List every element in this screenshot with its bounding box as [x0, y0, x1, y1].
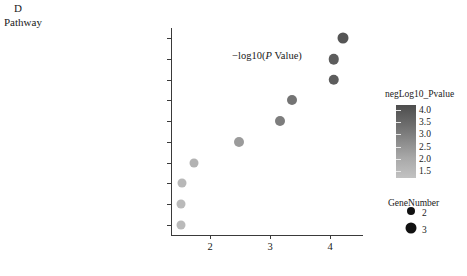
y-axis-tick — [167, 225, 171, 226]
x-axis-tick — [210, 235, 211, 239]
scatter-plot-area: Amyotrophic lateral sclerosis (ALS)Color… — [171, 28, 363, 235]
x-axis-title-prefix: −log10( — [232, 50, 265, 61]
data-point — [189, 158, 198, 167]
data-point — [275, 116, 285, 126]
size-legend-dot — [406, 223, 417, 234]
panel-letter: D — [14, 2, 22, 14]
y-axis-tick — [167, 100, 171, 101]
color-legend-tick — [396, 134, 401, 135]
y-axis-tick — [167, 38, 171, 39]
x-axis-line — [171, 235, 363, 236]
data-point — [178, 179, 187, 188]
data-point — [287, 95, 297, 105]
color-legend-tick — [396, 122, 401, 123]
y-axis-tick — [167, 183, 171, 184]
data-point — [328, 75, 339, 86]
color-legend-label: 3.0 — [419, 129, 431, 139]
color-legend-bar — [396, 105, 416, 178]
color-legend-title: negLog10_Pvalue — [385, 89, 454, 99]
data-point — [338, 33, 349, 44]
color-legend-label: 4.0 — [419, 105, 431, 115]
color-legend-tick — [396, 110, 401, 111]
y-axis-tick — [167, 204, 171, 205]
figure-panel-d: D Pathway Amyotrophic lateral sclerosis … — [0, 0, 467, 276]
data-point — [176, 220, 185, 229]
size-legend-label: 2 — [422, 208, 427, 218]
data-point — [234, 137, 244, 147]
y-axis-line — [171, 28, 172, 235]
x-axis-tick-label: 2 — [207, 241, 212, 252]
color-legend-tick — [396, 147, 401, 148]
y-axis-title: Pathway — [4, 16, 42, 28]
data-point — [176, 199, 185, 208]
x-axis-title-suffix: Value) — [272, 50, 302, 61]
x-axis-title: −log10(P Value) — [232, 50, 302, 61]
y-axis-tick — [167, 80, 171, 81]
y-axis-tick — [167, 121, 171, 122]
size-legend-dot — [407, 207, 415, 215]
y-axis-tick — [167, 163, 171, 164]
color-legend-label: 2.5 — [419, 142, 431, 152]
data-point — [328, 54, 339, 65]
x-axis-tick-label: 4 — [327, 241, 332, 252]
color-legend-tick — [396, 171, 401, 172]
size-legend-label: 3 — [422, 225, 427, 235]
y-axis-tick — [167, 59, 171, 60]
x-axis-tick — [270, 235, 271, 239]
color-legend-label: 1.5 — [419, 166, 431, 176]
y-axis-tick — [167, 142, 171, 143]
color-legend-label: 3.5 — [419, 117, 431, 127]
color-legend-tick — [396, 159, 401, 160]
color-legend-label: 2.0 — [419, 154, 431, 164]
x-axis-tick — [330, 235, 331, 239]
size-legend-title: GeneNumber — [388, 198, 439, 208]
x-axis-tick-label: 3 — [267, 241, 272, 252]
